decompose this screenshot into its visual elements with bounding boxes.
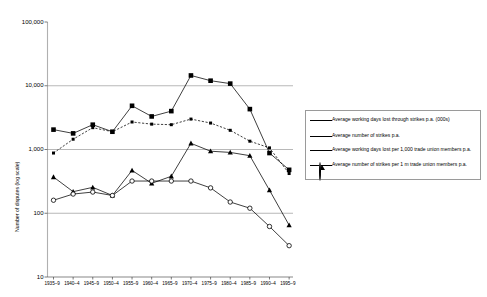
legend-label: Average number of strikes p.a. xyxy=(332,132,480,138)
legend-open-circle-icon xyxy=(310,162,332,170)
chart-legend: Average working days lost through strike… xyxy=(305,110,481,180)
chart-figure: Number of disputes (log scale) 100,00010… xyxy=(0,0,487,297)
legend-filled-triangle-icon xyxy=(310,147,332,155)
legend-small-filled-square-icon xyxy=(310,133,332,141)
legend-label: Average working days lost per 1,000 trad… xyxy=(332,146,480,152)
legend-item[interactable]: Average working days lost through strike… xyxy=(310,116,480,125)
legend-item[interactable]: Average working days lost per 1,000 trad… xyxy=(310,146,480,155)
legend-label: Average working days lost through strike… xyxy=(332,116,480,122)
legend-item[interactable]: Average number of strikes per 1 m trade … xyxy=(310,161,480,170)
legend-filled-square-icon xyxy=(310,117,332,125)
legend-label: Average number of strikes per 1 m trade … xyxy=(332,161,480,167)
legend-item[interactable]: Average number of strikes p.a. xyxy=(310,132,480,141)
